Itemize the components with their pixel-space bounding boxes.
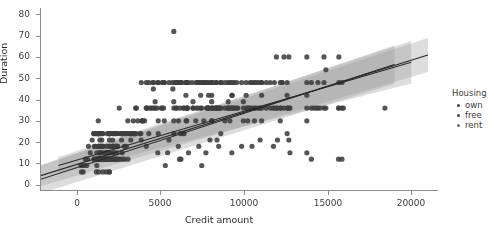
y-tick-mark: [36, 121, 40, 122]
legend-label-own: own: [465, 100, 483, 110]
y-tick-mark: [36, 100, 40, 101]
y-tick-mark: [36, 14, 40, 15]
legend-label-rent: rent: [465, 120, 482, 130]
y-tick-mark: [36, 36, 40, 37]
y-tick-mark: [36, 142, 40, 143]
x-tick-mark: [77, 191, 78, 195]
y-tick-label: 10: [4, 159, 30, 168]
x-tick-mark: [411, 191, 412, 195]
plot-area: [40, 8, 438, 190]
y-tick-label: 0: [4, 180, 30, 189]
legend-dot-own: [457, 104, 460, 107]
x-axis-line: [40, 190, 438, 191]
y-tick-mark: [36, 163, 40, 164]
y-tick-mark: [36, 57, 40, 58]
legend-item-rent[interactable]: rent: [452, 120, 487, 130]
y-axis-line: [40, 8, 41, 191]
legend-title: Housing: [452, 88, 487, 98]
y-tick-label: 20: [4, 138, 30, 147]
y-tick-label: 30: [4, 116, 30, 125]
legend: Housing own free rent: [452, 88, 487, 130]
x-tick-mark: [244, 191, 245, 195]
x-tick-label: 5000: [140, 199, 180, 208]
y-tick-label: 80: [4, 10, 30, 19]
y-tick-label: 70: [4, 31, 30, 40]
legend-item-own[interactable]: own: [452, 100, 487, 110]
legend-dot-rent: [457, 124, 460, 127]
y-axis-title: Duration: [0, 43, 9, 84]
legend-item-free[interactable]: free: [452, 110, 487, 120]
x-tick-mark: [328, 191, 329, 195]
x-tick-mark: [160, 191, 161, 195]
legend-dot-free: [457, 114, 460, 117]
chart-root: 01020304050607080 05000100001500020000 D…: [0, 0, 494, 236]
x-tick-label: 20000: [391, 199, 431, 208]
x-tick-label: 0: [57, 199, 97, 208]
legend-label-free: free: [465, 110, 482, 120]
x-tick-label: 10000: [224, 199, 264, 208]
scatter-plot-canvas: [40, 8, 438, 190]
y-tick-mark: [36, 78, 40, 79]
x-tick-label: 15000: [308, 199, 348, 208]
y-tick-label: 40: [4, 95, 30, 104]
x-axis-title: Credit amount: [0, 214, 438, 225]
y-tick-mark: [36, 185, 40, 186]
